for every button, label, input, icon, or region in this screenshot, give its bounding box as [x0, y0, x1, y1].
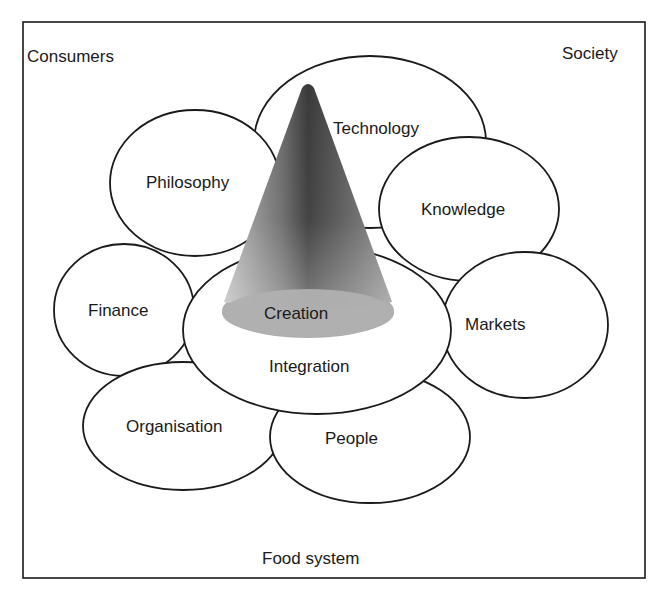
integration-label: Integration [269, 357, 349, 376]
philosophy-label: Philosophy [146, 173, 230, 192]
finance-label: Finance [88, 301, 148, 320]
people-label: People [325, 429, 378, 448]
food-system-label: Food system [262, 549, 359, 568]
society-label: Society [562, 44, 618, 63]
food-system-diagram: Consumers Society Food system Technology… [0, 0, 667, 601]
creation-label: Creation [264, 304, 328, 323]
markets-label: Markets [465, 315, 525, 334]
organisation-label: Organisation [126, 417, 222, 436]
consumers-label: Consumers [27, 47, 114, 66]
knowledge-label: Knowledge [421, 200, 505, 219]
technology-label: Technology [333, 119, 420, 138]
